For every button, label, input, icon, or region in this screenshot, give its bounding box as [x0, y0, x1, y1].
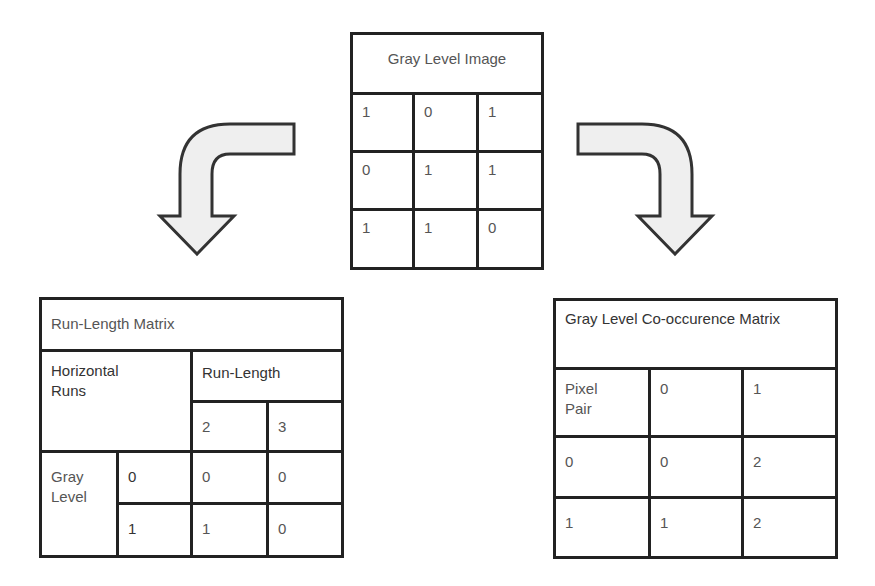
pixel-cell: 0 — [414, 94, 478, 152]
run-length-matrix-title: Run-Length Matrix — [41, 299, 343, 351]
run-length-cell: 0 — [268, 504, 343, 557]
pixel-cell: 1 — [414, 210, 478, 269]
pixel-cell: 1 — [352, 94, 414, 152]
curved-arrow-down-left-icon — [150, 118, 300, 258]
gray-level-image-table: Gray Level Image 1 0 1 0 1 1 1 1 0 — [350, 32, 544, 270]
pixel-cell: 1 — [478, 94, 543, 152]
gray-level-row-header: Gray Level — [41, 452, 118, 557]
pixel-cell: 0 — [478, 210, 543, 269]
gray-level-label: 1 — [118, 504, 192, 557]
pixel-cell: 1 — [478, 152, 543, 210]
run-length-cell: 0 — [268, 452, 343, 504]
pixel-pair-header: Pixel Pair — [555, 369, 650, 437]
horizontal-runs-header: Horizontal Runs — [41, 351, 192, 452]
glcm-column-label: 1 — [743, 369, 837, 437]
glcm-cell: 2 — [743, 437, 837, 498]
run-length-cell: 1 — [192, 504, 268, 557]
run-length-column-label: 2 — [192, 402, 268, 452]
glcm-row-label: 1 — [555, 498, 650, 558]
glcm-cell: 2 — [743, 498, 837, 558]
glcm-cell: 1 — [650, 498, 743, 558]
pixel-cell: 1 — [352, 210, 414, 269]
curved-arrow-down-right-icon — [574, 118, 724, 258]
glcm-column-label: 0 — [650, 369, 743, 437]
run-length-header: Run-Length — [192, 351, 343, 402]
pixel-cell: 0 — [352, 152, 414, 210]
glcm-cell: 0 — [650, 437, 743, 498]
glcm-row-label: 0 — [555, 437, 650, 498]
pixel-cell: 1 — [414, 152, 478, 210]
gray-level-image-title: Gray Level Image — [352, 34, 543, 94]
gray-level-label: 0 — [118, 452, 192, 504]
glcm-title: Gray Level Co-occurence Matrix — [555, 300, 837, 369]
run-length-cell: 0 — [192, 452, 268, 504]
run-length-column-label: 3 — [268, 402, 343, 452]
glcm-table: Gray Level Co-occurence Matrix Pixel Pai… — [553, 298, 838, 559]
run-length-matrix-table: Run-Length Matrix Horizontal Runs Run-Le… — [39, 297, 344, 558]
